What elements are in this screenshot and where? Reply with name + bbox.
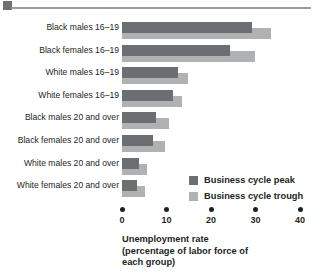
bar-business-cycle-peak [122,135,153,146]
category-label: Black males 20 and over [0,112,122,123]
chart-legend: Business cycle peakBusiness cycle trough [189,172,303,204]
legend-swatch-icon [189,192,198,201]
x-axis-title: Unemployment rate (percentage of labor f… [122,234,312,269]
x-axis: 010203040 [0,207,321,233]
category-label: White females 16–19 [0,90,122,101]
bar-business-cycle-peak [122,158,139,169]
legend-label: Business cycle peak [204,175,295,185]
chart-row: Black females 20 and over [0,135,321,157]
legend-label: Business cycle trough [204,191,303,201]
chart-row: Black males 20 and over [0,112,321,134]
legend-item[interactable]: Business cycle trough [189,188,303,204]
bar-business-cycle-peak [122,67,178,78]
x-axis-tick-dot [209,207,214,212]
bar-business-cycle-peak [122,90,173,101]
x-axis-tick-label: 20 [206,215,216,225]
bar-business-cycle-peak [122,180,137,191]
legend-swatch-icon [189,176,198,185]
x-axis-tick-dot [253,207,258,212]
x-axis-tick-dot [164,207,169,212]
category-label: White females 20 and over [0,180,122,191]
legend-item[interactable]: Business cycle peak [189,172,303,188]
bar-chart: Black males 16–19Black females 16–19Whit… [0,14,321,277]
x-axis-title-line-1: Unemployment rate [122,234,312,246]
bar-business-cycle-peak [122,45,230,56]
chart-row: White males 16–19 [0,67,321,89]
header-rule [0,0,321,14]
category-label: White males 16–19 [0,67,122,78]
bar-business-cycle-peak [122,22,252,33]
category-label: Black females 20 and over [0,135,122,146]
x-axis-tick-label: 0 [119,215,124,225]
header-rule-line [11,7,311,9]
x-axis-tick-label: 30 [250,215,260,225]
x-axis-title-line-3: each group) [122,257,312,269]
x-axis-tick-dot [120,207,125,212]
category-label: Black females 16–19 [0,45,122,56]
category-label: Black males 16–19 [0,22,122,33]
x-axis-tick-label: 40 [295,215,305,225]
category-label: White males 20 and over [0,158,122,169]
chart-row: Black females 16–19 [0,45,321,67]
x-axis-tick-dot [298,207,303,212]
bar-business-cycle-peak [122,112,156,123]
x-axis-tick-label: 10 [161,215,171,225]
x-axis-title-line-2: (percentage of labor force of [122,246,312,258]
chart-row: White females 16–19 [0,90,321,112]
chart-row: Black males 16–19 [0,22,321,44]
